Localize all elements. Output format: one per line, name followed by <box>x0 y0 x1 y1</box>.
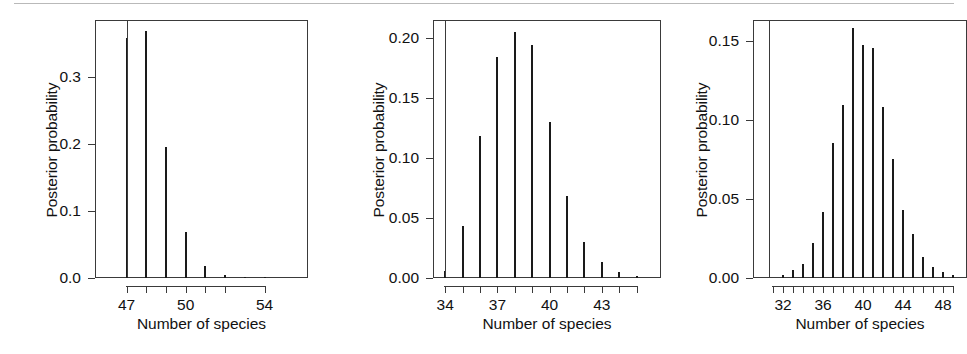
bar <box>782 275 784 278</box>
reference-line <box>127 21 128 277</box>
x-tick-label: 34 <box>437 296 454 314</box>
x-tick-mark <box>550 286 551 293</box>
x-tick-mark <box>903 286 904 293</box>
y-axis-title: Posterior probability <box>693 40 711 260</box>
x-tick-label: 43 <box>593 296 610 314</box>
bar <box>852 28 854 278</box>
y-tick-label: 0.10 <box>353 149 419 167</box>
x-tick-mark <box>773 286 774 293</box>
x-tick-label: 37 <box>489 296 506 314</box>
bar <box>244 277 246 279</box>
y-tick-mark <box>88 278 95 279</box>
bar <box>583 242 585 278</box>
bar <box>892 159 894 278</box>
bar <box>952 275 954 278</box>
x-tick-mark <box>853 286 854 293</box>
bar <box>902 210 904 278</box>
x-tick-mark <box>515 286 516 293</box>
x-tick-mark <box>445 286 446 293</box>
bar <box>462 226 464 278</box>
x-tick-mark <box>803 286 804 293</box>
x-tick-mark <box>793 286 794 293</box>
y-tick-mark <box>746 199 753 200</box>
x-tick-mark <box>933 286 934 293</box>
x-tick-mark <box>913 286 914 293</box>
bar <box>264 277 266 279</box>
x-tick-label: 44 <box>894 296 911 314</box>
plot-area-middle <box>433 20 661 278</box>
y-tick-label: 0.20 <box>353 29 419 47</box>
y-tick-mark <box>746 120 753 121</box>
x-tick-mark <box>823 286 824 293</box>
y-tick-label: 0.1 <box>15 202 81 220</box>
x-tick-mark <box>637 286 638 293</box>
x-tick-mark <box>265 286 266 293</box>
bar <box>165 147 167 278</box>
x-tick-mark <box>463 286 464 293</box>
y-tick-mark <box>426 158 433 159</box>
x-tick-label: 47 <box>118 296 135 314</box>
x-tick-mark <box>532 286 533 293</box>
x-tick-mark <box>619 286 620 293</box>
y-tick-mark <box>746 278 753 279</box>
reference-line <box>769 21 770 277</box>
y-tick-label: 0.00 <box>353 269 419 287</box>
y-tick-mark <box>88 211 95 212</box>
reference-line <box>445 21 446 277</box>
bar <box>812 243 814 278</box>
x-axis-line <box>126 286 266 287</box>
bar <box>496 57 498 278</box>
x-axis-title: Number of species <box>795 315 924 333</box>
x-tick-label: 40 <box>541 296 558 314</box>
x-tick-label: 50 <box>177 296 194 314</box>
y-tick-mark <box>746 41 753 42</box>
bar <box>145 31 147 278</box>
bar <box>531 45 533 278</box>
x-tick-mark <box>923 286 924 293</box>
bar <box>912 234 914 278</box>
chart-panel-right: Posterior probability 0.000.050.100.15 3… <box>648 0 967 354</box>
x-tick-mark <box>497 286 498 293</box>
bar <box>822 212 824 278</box>
bar <box>185 232 187 278</box>
y-tick-label: 0.00 <box>673 269 739 287</box>
bar <box>862 45 864 278</box>
x-tick-label: 54 <box>256 296 273 314</box>
x-axis-line <box>772 286 954 287</box>
x-tick-mark <box>205 286 206 293</box>
x-tick-mark <box>813 286 814 293</box>
bar <box>204 266 206 278</box>
x-tick-mark <box>833 286 834 293</box>
y-tick-label: 0.15 <box>673 32 739 50</box>
bar <box>832 143 834 278</box>
x-axis-title: Number of species <box>137 315 266 333</box>
bar <box>601 262 603 278</box>
x-tick-mark <box>893 286 894 293</box>
x-tick-mark <box>146 286 147 293</box>
y-tick-label: 0.05 <box>673 190 739 208</box>
chart-panel-middle: Posterior probability 0.000.050.100.150.… <box>325 0 650 354</box>
x-tick-mark <box>584 286 585 293</box>
bar <box>224 275 226 278</box>
bar <box>842 105 844 278</box>
x-tick-mark <box>883 286 884 293</box>
y-tick-label: 0.2 <box>15 135 81 153</box>
bar <box>792 270 794 278</box>
y-tick-mark <box>88 77 95 78</box>
x-axis-title: Number of species <box>482 315 611 333</box>
x-tick-mark <box>783 286 784 293</box>
x-tick-label: 40 <box>854 296 871 314</box>
y-tick-label: 0.15 <box>353 89 419 107</box>
y-tick-label: 0.10 <box>673 111 739 129</box>
bar <box>636 276 638 278</box>
x-axis-line <box>444 286 637 287</box>
x-tick-label: 32 <box>774 296 791 314</box>
y-tick-label: 0.0 <box>15 269 81 287</box>
bar <box>802 264 804 278</box>
bar <box>514 32 516 278</box>
bar <box>479 136 481 278</box>
x-tick-mark <box>567 286 568 293</box>
x-tick-mark <box>166 286 167 293</box>
x-tick-mark <box>186 286 187 293</box>
y-tick-mark <box>426 38 433 39</box>
